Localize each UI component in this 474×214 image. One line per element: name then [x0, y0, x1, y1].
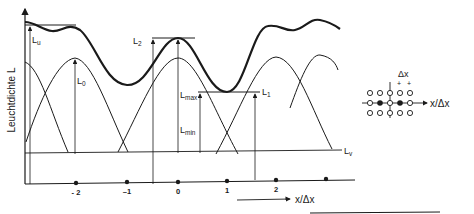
envelope-curve [25, 20, 340, 92]
x-tick: –1 [123, 187, 131, 196]
sampling-grid-inset: Δx + + x/Δx [362, 69, 449, 118]
lu-label: Lu [32, 35, 41, 46]
x-tick: 0 [176, 187, 180, 196]
l2-label: L2 [133, 36, 142, 47]
luminance-diagram: Lu L0 L2 Lmax L1 Lmin Lv Leuchtdichte L … [0, 0, 474, 214]
x-tick-labels: - 2 –1 0 1 2 [72, 185, 278, 197]
x-axis-label: x/Δx [295, 194, 314, 205]
inset-delta-label: Δx [398, 69, 409, 79]
x-tick: - 2 [72, 188, 81, 197]
plus-mark: + [407, 80, 411, 87]
sample-point [225, 179, 229, 183]
sample-point [125, 180, 129, 184]
y-axis-label: Leuchtdichte L [6, 67, 17, 132]
lmin-label: Lmin [180, 125, 196, 136]
lv-line [25, 150, 342, 153]
l1-label: L1 [262, 87, 271, 98]
lmax-label: Lmax [180, 90, 198, 101]
lv-label: Lv [344, 146, 353, 157]
l0-label: L0 [77, 76, 86, 87]
filled-sample [397, 100, 403, 106]
filled-sample [377, 100, 383, 106]
bottom-rule [310, 212, 440, 213]
sample-point [176, 180, 180, 184]
x-tick: 1 [225, 186, 229, 195]
sample-point [274, 178, 278, 182]
sample-point [324, 177, 328, 181]
plus-mark: + [397, 80, 401, 87]
inset-axis-label: x/Δx [430, 98, 449, 109]
single-spot-profiles [25, 55, 338, 154]
x-direction-arrow [237, 199, 290, 200]
sample-point [74, 181, 78, 185]
x-tick: 2 [274, 185, 278, 194]
x-axis [25, 177, 355, 185]
